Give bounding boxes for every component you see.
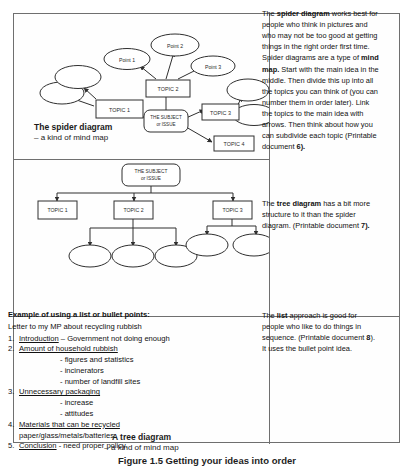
list-item-heading: Unnecessary packaging bbox=[19, 387, 100, 396]
tree-topic-3-label: TOPIC 3 bbox=[222, 207, 242, 213]
numbered-list: 1.Introduction – Government not doing en… bbox=[8, 334, 252, 453]
list-item: 5.Conclusion - need proper policy. bbox=[8, 441, 252, 452]
list-item-heading: Conclusion bbox=[19, 441, 57, 450]
tree-center-label-line1: THE SUBJECT bbox=[135, 169, 168, 174]
spider-center-label-line1: THE SUBJECT bbox=[150, 115, 182, 120]
list-item-tail: - need proper policy. bbox=[57, 441, 128, 450]
list-sub-item: - figures and statistics bbox=[8, 355, 252, 366]
list-text-run-1: The bbox=[262, 311, 277, 320]
spider-topic-4-label: TOPIC 4 bbox=[224, 141, 245, 147]
tree-diagram-panel: THE SUBJECT or ISSUE TOPIC 1 TOPIC 2 bbox=[14, 160, 269, 316]
tree-diagram-graphic: THE SUBJECT or ISSUE TOPIC 1 TOPIC 2 bbox=[14, 160, 269, 290]
list-item-heading: Materials that can be recycled bbox=[19, 420, 120, 429]
spider-text-bold-1: spider diagram bbox=[277, 9, 330, 18]
tree-leaf-oval-4 bbox=[186, 234, 228, 256]
list-item-number: 1. bbox=[8, 334, 19, 345]
list-subtitle: Letter to my MP about recycling rubbish bbox=[8, 322, 252, 333]
spider-point-2-label: Point 2 bbox=[167, 43, 183, 49]
spider-caption-subtitle: – a kind of mind map bbox=[34, 133, 184, 143]
list-item: 4.Materials that can be recycled bbox=[8, 420, 252, 431]
list-sub-item: - number of landfill sites bbox=[8, 377, 252, 388]
tree-topic-1-label: TOPIC 1 bbox=[47, 207, 67, 213]
tree-text-run-1: The bbox=[262, 199, 277, 208]
list-text-bold-1: list bbox=[277, 311, 288, 320]
spider-point-3-label: Point 3 bbox=[205, 64, 221, 70]
list-title: Example of using a list or bullet points… bbox=[8, 310, 252, 321]
tree-text-run-3: ). bbox=[365, 221, 370, 230]
spider-text-run-1: The bbox=[262, 9, 277, 18]
list-sub-item: - increase bbox=[8, 398, 252, 409]
list-item: 2.Amount of household rubbish bbox=[8, 344, 252, 355]
list-sub-item: - incinerators bbox=[8, 366, 252, 377]
list-item-plain-line: paper/glass/metals/batteries bbox=[8, 431, 252, 442]
list-item-heading: Amount of household rubbish bbox=[19, 344, 118, 353]
list-item: 1.Introduction – Government not doing en… bbox=[8, 334, 252, 345]
tree-topic-2-label: TOPIC 2 bbox=[123, 207, 143, 213]
spider-blank-oval-2 bbox=[55, 66, 101, 89]
spider-diagram-panel: Point 1 Point 2 Point 3 TOPIC 1 TOPIC 2 … bbox=[14, 14, 269, 159]
spider-point-1-label: Point 1 bbox=[119, 57, 135, 63]
edge-topic2-point1 bbox=[140, 66, 156, 79]
edge-center-topic4 bbox=[186, 127, 212, 142]
tree-leaf-oval-1 bbox=[69, 245, 111, 267]
figure-page: Point 1 Point 2 Point 3 TOPIC 1 TOPIC 2 … bbox=[0, 0, 414, 472]
tree-center-box bbox=[122, 164, 180, 186]
edge-center-topic3 bbox=[186, 110, 204, 118]
spider-text-run-4: ). bbox=[301, 142, 306, 151]
figure-caption: Figure 1.5 Getting your ideas into order bbox=[0, 455, 414, 466]
list-item-number: 2. bbox=[8, 344, 19, 355]
tree-text-panel bbox=[270, 160, 399, 316]
list-item-number: 5. bbox=[8, 441, 19, 452]
spider-diagram-caption: The spider diagram – a kind of mind map bbox=[34, 122, 184, 143]
edge-topic1-oval-a bbox=[84, 88, 96, 99]
list-item-number: 4. bbox=[8, 420, 19, 431]
tree-center-label-line2: or ISSUE bbox=[141, 176, 161, 181]
spider-text-run-3: Start with the main idea in the middle. … bbox=[262, 65, 379, 152]
list-item-number: 3. bbox=[8, 387, 19, 398]
spider-topic-2-label: TOPIC 2 bbox=[158, 86, 179, 92]
spider-caption-title: The spider diagram bbox=[34, 122, 184, 133]
list-sub-item: - attitudes bbox=[8, 409, 252, 420]
tree-leaf-oval-2 bbox=[112, 245, 154, 267]
list-item-tail: – Government not doing enough bbox=[59, 334, 170, 343]
list-item-heading: Introduction bbox=[19, 334, 59, 343]
spider-topic-3-label: TOPIC 3 bbox=[210, 110, 231, 116]
spider-topic-1-label: TOPIC 1 bbox=[109, 107, 130, 113]
spider-explanation-text: The spider diagram works best for people… bbox=[262, 8, 380, 152]
tree-leaf-oval-5 bbox=[233, 234, 269, 256]
tree-explanation-text: The tree diagram has a bit more structur… bbox=[262, 198, 380, 231]
list-explanation-text: The list approach is good for people who… bbox=[262, 310, 380, 354]
list-item: 3.Unnecessary packaging bbox=[8, 387, 252, 398]
tree-text-bold-1: tree diagram bbox=[277, 199, 321, 208]
bullet-list-content: Example of using a list or bullet points… bbox=[8, 310, 252, 452]
